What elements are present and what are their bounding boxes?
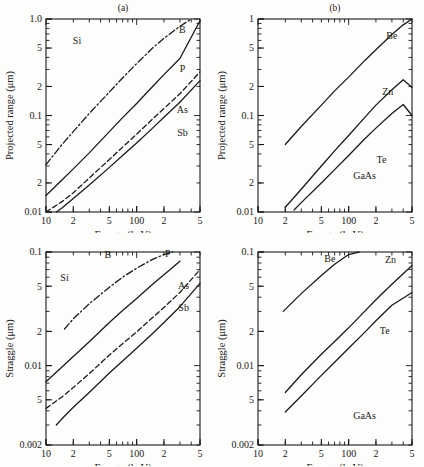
- curve-Zn: [285, 80, 412, 208]
- y-tick-label: 5: [249, 281, 254, 292]
- y-tick-label: 0.01: [237, 206, 255, 217]
- curve-label-Te: Te: [380, 325, 390, 336]
- x-tick-label: 2: [283, 448, 288, 459]
- curve-As: [46, 270, 200, 409]
- y-axis-label: Straggle (μm): [4, 319, 16, 378]
- x-tick-label: 100: [341, 448, 356, 459]
- y-tick-label: 0.1: [242, 110, 255, 121]
- x-axis-label: Energy (keV): [94, 462, 152, 466]
- curve-label-Sb: Sb: [177, 127, 188, 138]
- curve-label-As: As: [177, 104, 188, 115]
- x-tick-label: 5: [410, 215, 415, 226]
- curve-Be: [283, 252, 359, 311]
- x-tick-label: 10: [253, 448, 263, 459]
- x-tick-label: 5: [107, 215, 112, 226]
- y-tick-label: 2: [37, 326, 42, 337]
- x-tick-label: 2: [373, 215, 378, 226]
- panel-b: (b)1025100251520.1520.01Energy (keV)Proj…: [212, 0, 424, 233]
- x-axis-ticks: [258, 252, 412, 445]
- x-tick-label: 10: [41, 215, 51, 226]
- x-tick-label: 2: [161, 215, 166, 226]
- curve-label-Zn: Zn: [385, 254, 396, 265]
- curve-label-P: P: [180, 63, 186, 74]
- figure-root: (a)1025100251.0520.1520.01Energy (keV)Pr…: [0, 0, 424, 467]
- y-tick-label: 0.1: [30, 246, 43, 257]
- y-axis-ticks: [258, 252, 412, 445]
- curve-As: [46, 72, 200, 212]
- material-annotation: Si: [73, 35, 82, 46]
- y-tick-label: 1.0: [30, 13, 43, 24]
- y-tick-label: 1: [249, 13, 254, 24]
- x-tick-label: 100: [129, 215, 144, 226]
- y-tick-label: 5: [37, 281, 42, 292]
- y-tick-label: 5: [249, 42, 254, 53]
- panel-caption: (b): [329, 3, 340, 14]
- curve-Zn: [285, 266, 412, 393]
- curves: [46, 252, 200, 425]
- y-tick-label: 2: [249, 177, 254, 188]
- x-tick-label: 5: [319, 215, 324, 226]
- curve-label-B: B: [104, 249, 111, 260]
- y-axis-ticks: [46, 252, 200, 445]
- curve-label-Be: Be: [386, 30, 398, 41]
- y-axis-label: Projected range (μm): [216, 70, 228, 160]
- curve-label-P: P: [165, 248, 171, 259]
- y-tick-label: 0.1: [30, 110, 43, 121]
- y-tick-label: 2: [249, 81, 254, 92]
- curve-label-Be: Be: [324, 253, 336, 264]
- y-tick-label: 0.01: [25, 360, 43, 371]
- x-tick-label: 2: [373, 448, 378, 459]
- plot-frame: [46, 19, 200, 212]
- x-tick-label: 10: [253, 215, 263, 226]
- plot-frame: [258, 252, 412, 445]
- y-tick-label: 2: [37, 81, 42, 92]
- curve-Te: [294, 105, 412, 210]
- x-tick-label: 2: [71, 448, 76, 459]
- material-annotation: GaAs: [353, 170, 376, 181]
- x-tick-label: 5: [107, 448, 112, 459]
- x-tick-label: 5: [410, 448, 415, 459]
- panel-d: 1025100250.1520.0150.002Energy (keV)Stra…: [212, 233, 424, 466]
- curve-label-Te: Te: [377, 154, 387, 165]
- panel-c: 1025100250.1520.0150.002Energy (keV)Stra…: [0, 233, 212, 466]
- y-tick-label: 2: [37, 177, 42, 188]
- x-tick-label: 5: [198, 215, 203, 226]
- x-axis-ticks: [46, 19, 200, 212]
- y-axis-label: Projected range (μm): [4, 70, 16, 160]
- x-tick-label: 2: [71, 215, 76, 226]
- curves: [283, 252, 412, 412]
- y-tick-label: 5: [249, 139, 254, 150]
- material-annotation: Si: [60, 272, 69, 283]
- curve-label-As: As: [178, 280, 189, 291]
- x-tick-label: 2: [283, 215, 288, 226]
- material-annotation: GaAs: [353, 410, 376, 421]
- curve-label-B: B: [179, 24, 186, 35]
- y-tick-label: 0.002: [232, 439, 255, 450]
- x-tick-label: 100: [129, 448, 144, 459]
- plot-frame: [46, 252, 200, 445]
- y-tick-label: 0.01: [237, 360, 255, 371]
- curve-label-Sb: Sb: [178, 302, 189, 313]
- curves: [46, 19, 200, 212]
- x-tick-label: 5: [198, 448, 203, 459]
- y-tick-label: 5: [249, 394, 254, 405]
- y-tick-label: 2: [249, 326, 254, 337]
- curve-Te: [285, 293, 412, 413]
- y-tick-label: 5: [37, 42, 42, 53]
- curves: [285, 19, 412, 210]
- x-tick-label: 10: [41, 448, 51, 459]
- curve-Sb: [56, 81, 200, 212]
- x-tick-label: 2: [161, 448, 166, 459]
- y-tick-label: 5: [37, 394, 42, 405]
- y-tick-label: 0.1: [242, 246, 255, 257]
- x-axis-label: Energy (keV): [306, 462, 364, 466]
- panel-a: (a)1025100251.0520.1520.01Energy (keV)Pr…: [0, 0, 212, 233]
- y-tick-label: 0.01: [25, 206, 43, 217]
- x-axis-ticks: [46, 252, 200, 445]
- x-tick-label: 5: [319, 448, 324, 459]
- y-axis-label: Straggle (μm): [216, 319, 228, 378]
- x-tick-label: 100: [341, 215, 356, 226]
- curve-label-Zn: Zn: [382, 86, 393, 97]
- panel-caption: (a): [118, 3, 129, 14]
- y-tick-label: 0.002: [20, 439, 43, 450]
